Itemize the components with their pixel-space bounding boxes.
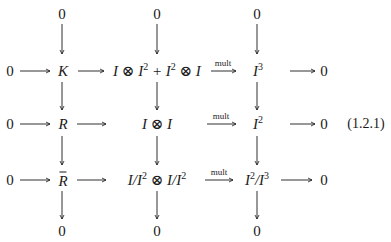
node-I-tensor-I2-plus-I2-tensor-I: I ⊗ I2 + I2 ⊗ I bbox=[113, 64, 201, 79]
zero-bottom-col2: 0 bbox=[153, 224, 161, 239]
arrow-label-mult: mult bbox=[211, 167, 228, 177]
superscript: 3 bbox=[258, 61, 263, 72]
node-I2: I2 bbox=[253, 117, 263, 132]
node-I3: I3 bbox=[253, 64, 263, 79]
superscript: 3 bbox=[264, 170, 269, 181]
node-I-mod-I2-tensor-I-mod-I2: I/I2 ⊗ I/I2 bbox=[128, 173, 186, 188]
zero-top-col1: 0 bbox=[58, 7, 66, 22]
node-I2-mod-I3: I2/I3 bbox=[245, 173, 269, 188]
term-text: R bbox=[58, 174, 67, 189]
arrow-label-mult: mult bbox=[215, 58, 232, 68]
zero-left-row1: 0 bbox=[6, 64, 14, 79]
zero-left-row2: 0 bbox=[6, 117, 14, 132]
node-R: R bbox=[58, 117, 67, 132]
node-R-bar: R bbox=[58, 174, 67, 189]
term-text: I/I bbox=[128, 172, 142, 188]
zero-left-row3: 0 bbox=[6, 173, 14, 188]
term-text: + I bbox=[148, 63, 171, 79]
zero-bottom-col1: 0 bbox=[58, 224, 66, 239]
zero-top-col2: 0 bbox=[153, 7, 161, 22]
arrow-label-mult: mult bbox=[213, 111, 230, 121]
node-K: K bbox=[58, 64, 68, 79]
node-I-tensor-I: I ⊗ I bbox=[142, 117, 172, 132]
term-text: ⊗ I bbox=[176, 63, 201, 79]
superscript: 2 bbox=[181, 170, 186, 181]
term-text: /I bbox=[255, 172, 264, 188]
zero-right-row1: 0 bbox=[320, 64, 328, 79]
zero-right-row2: 0 bbox=[320, 117, 328, 132]
zero-right-row3: 0 bbox=[320, 173, 328, 188]
superscript: 2 bbox=[258, 114, 263, 125]
zero-top-col3: 0 bbox=[253, 7, 261, 22]
term-text: I ⊗ I bbox=[113, 63, 143, 79]
zero-bottom-col3: 0 bbox=[253, 224, 261, 239]
term-text: ⊗ I/I bbox=[147, 172, 181, 188]
equation-label: (1.2.1) bbox=[347, 116, 384, 132]
